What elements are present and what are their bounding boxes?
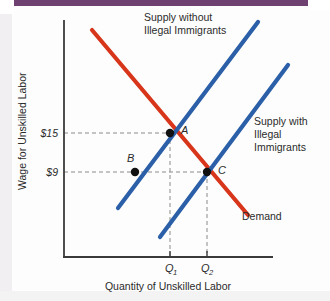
figure-page: A B C $15 $9 Q 1 Q 2 Wage for Unskilled … bbox=[0, 0, 330, 301]
supply-with-label-line2: Illegal bbox=[254, 128, 281, 140]
supply-without-label-line2: Illegal Immigrants bbox=[144, 24, 226, 36]
supply-with-immigrants-label: Supply with Illegal Immigrants bbox=[254, 115, 308, 153]
x-tick-q2-subscript: 2 bbox=[208, 268, 214, 277]
point-b-marker bbox=[131, 168, 139, 176]
data-points bbox=[131, 129, 211, 176]
supply-demand-chart: A B C $15 $9 Q 1 Q 2 Wage for Unskilled … bbox=[0, 0, 330, 301]
guide-lines bbox=[64, 133, 207, 257]
supply-without-label-line1: Supply without bbox=[144, 11, 212, 23]
demand-label: Demand bbox=[242, 210, 282, 222]
point-a-label: A bbox=[180, 124, 188, 136]
point-b-label: B bbox=[127, 152, 134, 164]
supply-without-immigrants-label: Supply without Illegal Immigrants bbox=[144, 11, 226, 36]
demand-curve bbox=[92, 30, 248, 215]
y-tick-label-9: $9 bbox=[45, 166, 58, 178]
point-c-label: C bbox=[218, 164, 226, 176]
point-a-marker bbox=[166, 129, 174, 137]
point-c-marker bbox=[203, 168, 211, 176]
y-axis-title: Wage for Unskilled Labor bbox=[16, 72, 28, 190]
supply-with-label-line3: Immigrants bbox=[254, 141, 306, 153]
x-tick-label-q1: Q 1 bbox=[165, 262, 177, 277]
x-tick-label-q2: Q 2 bbox=[201, 262, 214, 277]
y-tick-label-15: $15 bbox=[39, 127, 58, 139]
x-tick-q1-subscript: 1 bbox=[173, 268, 177, 277]
supply-with-label-line1: Supply with bbox=[254, 115, 308, 127]
x-axis-title: Quantity of Unskilled Labor bbox=[105, 280, 232, 292]
supply-without-immigrants-curve bbox=[118, 22, 258, 208]
